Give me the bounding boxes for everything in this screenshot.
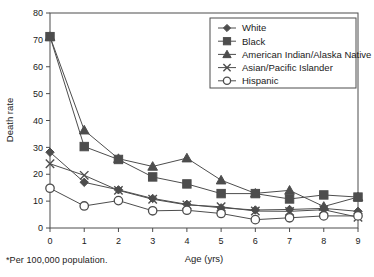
data-point-marker [148, 173, 156, 181]
data-point-marker [354, 212, 362, 220]
data-point-marker [223, 38, 230, 45]
y-tick-label: 70 [33, 35, 43, 45]
y-tick-label: 0 [38, 223, 43, 233]
legend-label: American Indian/Alaska Native [242, 49, 371, 60]
death-rate-line-chart: 01020304050607080 0123456789 Death rate … [0, 0, 374, 277]
legend-item-2[interactable]: Black [218, 36, 265, 47]
data-point-marker [183, 180, 191, 188]
y-tick-label: 60 [33, 62, 43, 72]
data-point-marker [320, 212, 328, 220]
x-tick-label: 9 [355, 236, 360, 246]
x-tick-label: 6 [253, 236, 258, 246]
legend-label: Hispanic [242, 75, 279, 86]
data-point-marker [285, 195, 293, 203]
data-point-marker [80, 142, 88, 150]
x-tick-label: 8 [321, 236, 326, 246]
x-tick-label: 1 [82, 236, 87, 246]
y-tick-label: 10 [33, 196, 43, 206]
data-point-marker [46, 184, 54, 192]
y-tick-label: 50 [33, 89, 43, 99]
data-point-marker [320, 191, 328, 199]
y-tick-label: 20 [33, 169, 43, 179]
data-point-marker [148, 207, 156, 215]
y-tick-label: 30 [33, 143, 43, 153]
x-tick-label: 7 [287, 236, 292, 246]
legend-item-5[interactable]: Hispanic [218, 75, 279, 86]
x-tick-label: 2 [116, 236, 121, 246]
x-tick-label: 0 [47, 236, 52, 246]
data-point-marker [183, 206, 191, 214]
chart-footnote: *Per 100,000 population. [6, 255, 107, 265]
data-point-marker [114, 196, 122, 204]
data-point-marker [217, 209, 225, 217]
data-point-marker [285, 214, 293, 222]
data-point-marker [80, 202, 88, 210]
y-tick-label: 40 [33, 116, 43, 126]
chart-legend: WhiteBlackAmerican Indian/Alaska NativeA… [210, 18, 371, 88]
x-tick-label: 3 [150, 236, 155, 246]
legend-label: Black [242, 36, 265, 47]
data-point-marker [251, 215, 259, 223]
data-point-marker [217, 189, 225, 197]
legend-label: Asian/Pacific Islander [242, 62, 333, 73]
legend-label: White [242, 22, 266, 33]
y-axis-title: Death rate [4, 98, 15, 142]
y-tick-label: 80 [33, 8, 43, 18]
data-point-marker [223, 77, 230, 84]
x-axis-title: Age (yrs) [185, 253, 224, 264]
x-tick-label: 5 [219, 236, 224, 246]
x-tick-label: 4 [184, 236, 189, 246]
